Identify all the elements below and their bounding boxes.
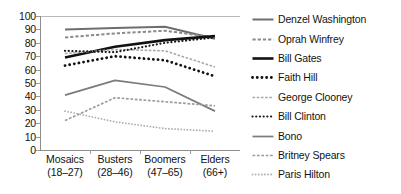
legend-item[interactable]: Bill Clinton [252, 107, 401, 126]
legend-item-label: George Clooney [278, 92, 352, 103]
legend-line-swatch-icon [252, 111, 274, 122]
y-axis-tick-mark [36, 70, 40, 71]
y-axis-tick-mark [36, 96, 40, 97]
legend-line-swatch-icon [252, 14, 274, 25]
legend-item-label: Oprah Winfrey [278, 34, 344, 45]
legend-item[interactable]: George Clooney [252, 88, 401, 107]
y-axis-tick-mark [36, 110, 40, 111]
y-axis-tick-mark [36, 137, 40, 138]
y-axis-tick-mark [36, 123, 40, 124]
series-line [65, 111, 215, 131]
series-line [65, 56, 215, 76]
legend-item[interactable]: Britney Spears [252, 146, 401, 165]
legend-line-swatch-icon [252, 169, 274, 180]
series-line [65, 37, 215, 52]
plot-area: 1009080706050403020100 Mosaics(18–27)Bus… [0, 0, 246, 194]
legend-item-label: Bill Gates [278, 53, 321, 64]
legend-item-label: Faith Hill [278, 72, 317, 83]
legend-item[interactable]: Paris Hilton [252, 165, 401, 184]
x-axis-tick-mark [90, 150, 91, 154]
chart-legend: Denzel WashingtonOprah WinfreyBill Gates… [252, 10, 401, 185]
legend-item-label: Denzel Washington [278, 14, 366, 25]
y-axis-tick-mark [36, 16, 40, 17]
legend-item[interactable]: Oprah Winfrey [252, 29, 401, 48]
legend-item[interactable]: Bill Gates [252, 49, 401, 68]
legend-line-swatch-icon [252, 53, 274, 64]
y-axis-tick-mark [36, 29, 40, 30]
x-axis-tick-mark [190, 150, 191, 154]
legend-item-label: Britney Spears [278, 150, 345, 161]
legend-line-swatch-icon [252, 72, 274, 83]
series-line [65, 80, 215, 111]
legend-item[interactable]: Bono [252, 126, 401, 145]
legend-line-swatch-icon [252, 34, 274, 45]
legend-item-label: Bono [278, 131, 302, 142]
series-line [65, 31, 215, 38]
y-axis-tick-mark [36, 56, 40, 57]
y-axis-tick-mark [36, 150, 40, 151]
y-axis-tick-mark [36, 43, 40, 44]
legend-line-swatch-icon [252, 92, 274, 103]
legend-item-label: Bill Clinton [278, 111, 326, 122]
legend-item[interactable]: Denzel Washington [252, 10, 401, 29]
legend-line-swatch-icon [252, 131, 274, 142]
x-axis-tick-mark [140, 150, 141, 154]
legend-item-label: Paris Hilton [278, 169, 330, 180]
legend-item[interactable]: Faith Hill [252, 68, 401, 87]
legend-line-swatch-icon [252, 150, 274, 161]
chart-container: 1009080706050403020100 Mosaics(18–27)Bus… [0, 0, 401, 194]
y-axis-tick-mark [36, 83, 40, 84]
